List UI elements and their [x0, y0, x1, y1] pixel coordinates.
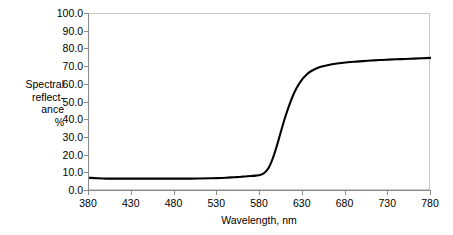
x-axis-tick-mark [259, 191, 260, 195]
plot-canvas [89, 14, 431, 191]
x-axis-tick-label: 580 [237, 197, 281, 209]
x-axis-tick-mark [345, 191, 346, 195]
y-axis-tick-label: 20.0 [50, 149, 83, 160]
y-axis-tick-label: 70.0 [50, 61, 83, 72]
x-axis-tick-mark [430, 191, 431, 195]
y-axis-tick-label: 80.0 [50, 43, 83, 54]
x-axis-tick-mark [302, 191, 303, 195]
y-axis-tick-label: 40.0 [50, 114, 83, 125]
spectral-reflectance-chart: Spectral reflect- ance % 0.010.020.030.0… [0, 0, 453, 235]
x-axis-tick-mark [88, 191, 89, 195]
x-axis-tick-mark [174, 191, 175, 195]
x-axis-tick-label: 730 [365, 197, 409, 209]
y-axis-tick-label: 90.0 [50, 25, 83, 36]
series-line-spectral-reflectance [89, 58, 431, 179]
y-axis-tick-labels: 0.010.020.030.040.050.060.070.080.090.01… [50, 13, 83, 190]
y-axis-tick-label: 60.0 [50, 79, 83, 90]
x-axis-tick-mark [387, 191, 388, 195]
y-axis-tick-label: 50.0 [50, 96, 83, 107]
x-axis-tick-label: 780 [408, 197, 452, 209]
x-axis-tick-mark [216, 191, 217, 195]
x-axis-tick-label: 430 [109, 197, 153, 209]
plot-area [88, 13, 430, 190]
x-axis-tick-mark [131, 191, 132, 195]
y-axis-tick-label: 0.0 [50, 185, 83, 196]
x-axis-title: Wavelength, nm [88, 214, 430, 226]
x-axis-tick-label: 530 [194, 197, 238, 209]
x-axis-tick-label: 680 [323, 197, 367, 209]
y-axis-tick-label: 10.0 [50, 167, 83, 178]
x-axis-tick-labels: 380430480530580630680730780 [0, 197, 453, 211]
x-axis-tick-label: 380 [66, 197, 110, 209]
x-axis-tick-label: 480 [152, 197, 196, 209]
y-axis-line [88, 13, 89, 191]
x-axis-tick-label: 630 [280, 197, 324, 209]
y-axis-tick-label: 100.0 [50, 8, 83, 19]
y-axis-tick-label: 30.0 [50, 132, 83, 143]
